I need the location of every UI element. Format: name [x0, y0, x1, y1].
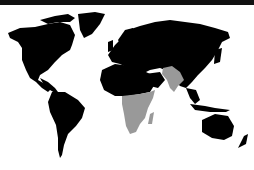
south-america: [48, 92, 85, 158]
sub-saharan-africa: [122, 90, 155, 134]
british-isles: [108, 40, 113, 52]
australia: [202, 114, 234, 140]
base-land: [8, 12, 248, 158]
new-zealand: [238, 134, 248, 148]
indonesia: [190, 104, 230, 112]
southeast-asia: [186, 88, 200, 104]
greenland: [78, 12, 105, 38]
north-america: [8, 22, 75, 92]
madagascar: [148, 112, 154, 124]
japan: [214, 48, 222, 64]
world-map: [0, 0, 254, 170]
